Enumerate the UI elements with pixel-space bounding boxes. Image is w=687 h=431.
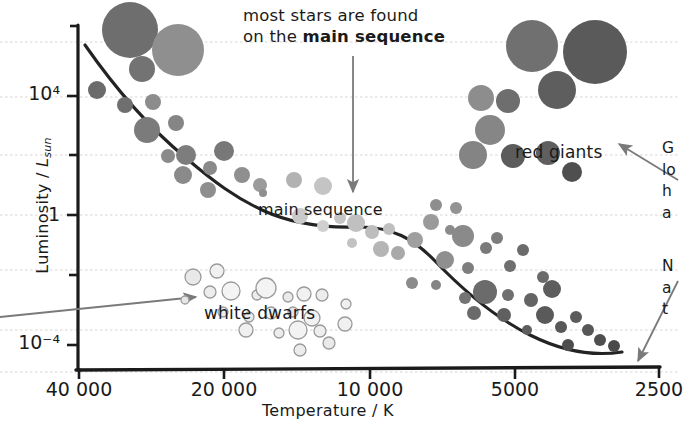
star-marker xyxy=(256,278,276,298)
star-marker xyxy=(491,232,503,244)
star-marker xyxy=(570,311,582,323)
star-marker xyxy=(259,189,267,197)
annotation-line-2: on the main sequence xyxy=(243,26,445,47)
x-tick-label-1: 20 000 xyxy=(169,378,279,400)
star-marker xyxy=(347,238,357,248)
star-marker xyxy=(536,306,554,324)
y-tick-label-0: 10⁴ xyxy=(8,82,60,104)
right-text-1-1: lo xyxy=(662,160,676,182)
star-marker xyxy=(152,24,204,76)
star-marker xyxy=(314,325,326,337)
star-marker xyxy=(283,292,293,302)
star-marker xyxy=(459,292,471,304)
star-marker xyxy=(543,280,561,298)
star-marker xyxy=(176,145,196,165)
label-main-sequence: main sequence xyxy=(258,200,383,219)
star-marker xyxy=(562,162,582,182)
star-marker xyxy=(406,277,418,289)
star-marker xyxy=(102,2,158,58)
annotation-line-1: most stars are found xyxy=(243,5,445,26)
star-marker xyxy=(431,280,441,290)
star-marker xyxy=(468,85,494,111)
star-marker xyxy=(314,177,332,195)
star-marker xyxy=(168,115,184,131)
right-text-1-2: h xyxy=(662,181,676,203)
star-marker xyxy=(459,141,487,169)
star-marker xyxy=(462,262,474,274)
star-marker xyxy=(480,242,492,254)
star-marker xyxy=(562,339,574,351)
star-marker xyxy=(608,340,620,352)
star-marker xyxy=(286,172,302,188)
label-red-giants: red giants xyxy=(515,142,603,162)
star-marker xyxy=(582,324,594,336)
star-marker xyxy=(203,161,217,175)
star-marker xyxy=(88,81,106,99)
star-marker xyxy=(538,71,576,109)
star-marker xyxy=(594,334,606,346)
x-tick-label-4: 2500 xyxy=(611,378,687,400)
star-marker xyxy=(407,232,423,248)
star-marker xyxy=(338,317,352,331)
star-marker xyxy=(555,321,567,333)
star-marker xyxy=(185,269,201,285)
star-marker xyxy=(517,244,529,256)
right-text-2-1: a xyxy=(662,278,674,300)
annotation-line-2-plain: on the xyxy=(243,27,303,46)
star-marker xyxy=(473,280,497,304)
star-marker xyxy=(467,306,481,320)
right-text-2-0: N xyxy=(662,256,674,278)
star-marker xyxy=(297,287,311,301)
star-marker xyxy=(341,299,351,309)
star-marker xyxy=(383,223,395,235)
star-marker xyxy=(294,344,306,356)
star-marker xyxy=(161,149,175,163)
right-text-1-0: G xyxy=(662,138,676,160)
star-marker xyxy=(430,199,442,211)
star-marker xyxy=(274,328,284,338)
star-marker xyxy=(323,337,335,349)
star-marker xyxy=(129,56,155,82)
star-marker xyxy=(181,296,189,304)
right-text-1-3: a xyxy=(662,203,676,225)
x-tick-label-3: 5000 xyxy=(467,378,563,400)
star-marker xyxy=(317,220,329,232)
star-marker xyxy=(423,214,439,230)
x-axis-title: Temperature / K xyxy=(262,401,394,420)
star-marker xyxy=(134,117,160,143)
right-text-block-2: N a t xyxy=(662,256,674,321)
star-marker xyxy=(537,271,549,283)
star-marker xyxy=(373,241,389,257)
star-marker xyxy=(563,20,627,84)
star-marker xyxy=(391,246,405,260)
star-marker xyxy=(210,264,224,278)
star-marker xyxy=(214,141,234,161)
x-tick-label-2: 10 000 xyxy=(315,378,425,400)
star-marker xyxy=(365,225,379,239)
star-marker xyxy=(316,289,328,301)
star-marker xyxy=(234,167,250,183)
y-tick-text-2: 10⁻⁴ xyxy=(18,331,60,353)
star-marker xyxy=(496,89,520,113)
right-text-block-1: G lo h a xyxy=(662,138,676,224)
star-marker xyxy=(504,260,516,272)
y-tick-label-2: 10⁻⁴ xyxy=(4,331,60,353)
x-tick-label-0: 40 000 xyxy=(24,378,134,400)
star-marker xyxy=(497,308,511,322)
y-axis-title: Luminosity / Lsun xyxy=(33,121,54,291)
label-white-dwarfs: white dwarfs xyxy=(204,303,315,323)
star-marker xyxy=(174,166,192,184)
star-marker xyxy=(239,323,253,337)
annotation-line-2-bold: main sequence xyxy=(303,27,446,46)
star-marker xyxy=(200,182,216,198)
star-marker xyxy=(506,20,558,72)
y-tick-text-0: 10⁴ xyxy=(28,82,60,104)
star-marker xyxy=(222,282,240,300)
star-marker xyxy=(522,325,532,335)
star-marker xyxy=(502,289,514,301)
star-marker xyxy=(117,97,133,113)
right-text-2-2: t xyxy=(662,299,674,321)
star-marker xyxy=(452,225,474,247)
star-marker xyxy=(450,202,462,214)
star-marker xyxy=(475,115,505,145)
